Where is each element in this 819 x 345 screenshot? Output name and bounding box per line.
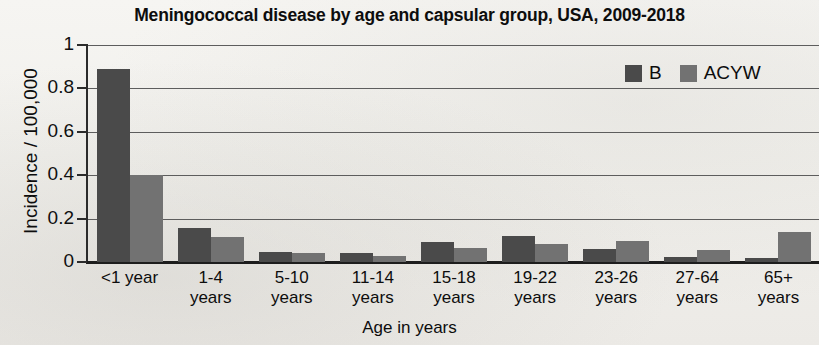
bar-acyw[interactable] — [778, 232, 811, 262]
bar-acyw[interactable] — [211, 237, 244, 262]
bar-acyw[interactable] — [616, 241, 649, 262]
bar-b[interactable] — [421, 242, 454, 262]
y-axis-line — [86, 44, 88, 263]
bar-group — [332, 45, 413, 262]
legend-swatch-acyw-icon — [680, 65, 697, 82]
x-axis-category-label: <1 year — [89, 268, 170, 308]
x-axis-label-line: <1 year — [89, 268, 170, 288]
bar-acyw[interactable] — [130, 175, 163, 262]
x-axis-label-line: years — [657, 288, 738, 308]
x-axis-label-line: 1-4 — [170, 268, 251, 288]
x-axis-label-line: 65+ — [738, 268, 819, 288]
x-axis-category-label: 23-26years — [576, 268, 657, 308]
chart-title: Meningococcal disease by age and capsula… — [0, 5, 819, 26]
x-axis-label-line: 27-64 — [657, 268, 738, 288]
x-axis-label-line: years — [576, 288, 657, 308]
legend-label-acyw: ACYW — [704, 62, 761, 84]
legend-label-b: B — [649, 62, 662, 84]
x-axis-category-label: 65+years — [738, 268, 819, 308]
bar-group — [495, 45, 576, 262]
bar-acyw[interactable] — [454, 248, 487, 262]
x-axis-label-line: 5-10 — [251, 268, 332, 288]
x-axis-category-labels: <1 year 1-4years5-10years11-14years15-18… — [89, 268, 819, 308]
bar-b[interactable] — [178, 228, 211, 262]
bar-acyw[interactable] — [292, 253, 325, 262]
x-axis-category-label: 5-10years — [251, 268, 332, 308]
x-axis-label-line: 23-26 — [576, 268, 657, 288]
bar-b[interactable] — [502, 236, 535, 262]
x-axis-label-line: years — [170, 288, 251, 308]
x-axis-category-label: 1-4years — [170, 268, 251, 308]
x-axis-label-line: 15-18 — [413, 268, 494, 288]
y-axis-tick — [77, 218, 87, 220]
x-axis-label-line: 19-22 — [495, 268, 576, 288]
legend-swatch-b-icon — [625, 65, 642, 82]
y-axis-tick — [77, 174, 87, 176]
y-axis-tick — [77, 44, 87, 46]
x-axis-label-line — [89, 288, 170, 308]
bar-group — [251, 45, 332, 262]
x-axis-label-line: years — [332, 288, 413, 308]
bar-group — [89, 45, 170, 262]
bar-b[interactable] — [97, 69, 130, 262]
bar-acyw[interactable] — [373, 256, 406, 262]
legend-item-b[interactable]: B — [625, 62, 662, 84]
bar-group — [170, 45, 251, 262]
x-axis-label-line: years — [738, 288, 819, 308]
x-axis-label-line: years — [413, 288, 494, 308]
bar-group — [413, 45, 494, 262]
x-axis-category-label: 19-22years — [495, 268, 576, 308]
bar-acyw[interactable] — [535, 244, 568, 262]
legend-item-acyw[interactable]: ACYW — [680, 62, 761, 84]
x-axis-label-line: years — [495, 288, 576, 308]
bar-b[interactable] — [664, 257, 697, 262]
y-axis-tick — [77, 261, 87, 263]
y-axis-tick — [77, 131, 87, 133]
y-axis-title: Incidence / 100,000 — [20, 36, 42, 266]
x-axis-category-label: 15-18years — [413, 268, 494, 308]
chart-legend: B ACYW — [625, 62, 761, 84]
x-axis-category-label: 11-14years — [332, 268, 413, 308]
bar-b[interactable] — [583, 249, 616, 262]
x-axis-label-line: years — [251, 288, 332, 308]
bar-b[interactable] — [745, 258, 778, 262]
bar-b[interactable] — [259, 252, 292, 262]
bar-acyw[interactable] — [697, 250, 730, 262]
x-axis-label-line: 11-14 — [332, 268, 413, 288]
x-axis-title: Age in years — [0, 318, 819, 338]
bar-b[interactable] — [340, 253, 373, 262]
x-axis-category-label: 27-64years — [657, 268, 738, 308]
y-axis-tick — [77, 87, 87, 89]
